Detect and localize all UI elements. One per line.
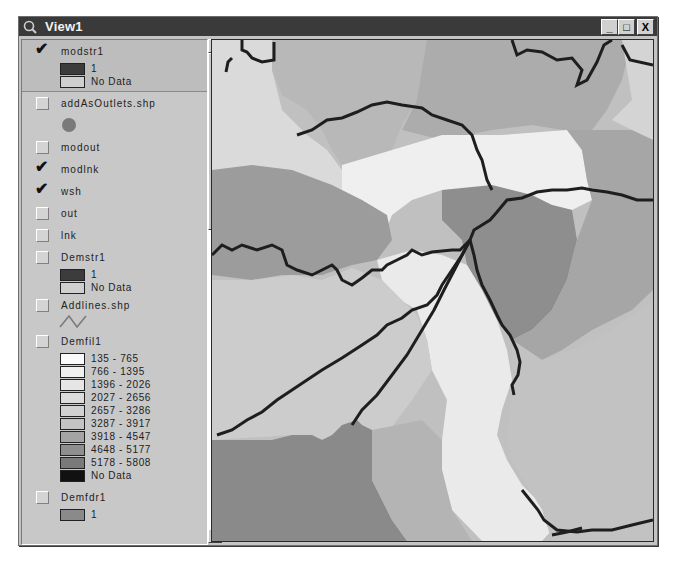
legend-label: 3918 - 4547	[91, 431, 151, 442]
map-display[interactable]	[211, 39, 654, 542]
line-symbol-icon	[58, 312, 207, 330]
legend-label: 1	[91, 63, 97, 74]
layer-addlines[interactable]: Addlines.shp	[22, 294, 207, 330]
layer-demfdr1[interactable]: Demfdr1 1	[22, 486, 207, 521]
layer-demfil1[interactable]: Demfil1 135 - 765 766 - 1395 1396 - 2026…	[22, 330, 207, 482]
legend-swatch	[60, 353, 85, 365]
legend-label: No Data	[91, 282, 132, 293]
legend-item: 2657 - 3286	[60, 404, 207, 417]
legend-item: 2027 - 2656	[60, 391, 207, 404]
layer-visibility-checkbox[interactable]	[36, 207, 49, 220]
layer-name: lnk	[61, 230, 77, 241]
layer-name: out	[61, 208, 78, 219]
layer-lnk[interactable]: lnk	[22, 224, 207, 246]
legend-item: 5178 - 5808	[60, 456, 207, 469]
legend-label: 1	[91, 269, 97, 280]
layer-visibility-checkbox[interactable]: ✔	[36, 163, 49, 176]
layer-name: modstr1	[61, 46, 104, 57]
legend-item: 135 - 765	[60, 352, 207, 365]
legend-item: 1	[60, 62, 207, 75]
layer-visibility-checkbox[interactable]	[36, 335, 49, 348]
layer-modstr1[interactable]: ✔ modstr1 1 No Data	[22, 40, 207, 92]
layer-name: Demfil1	[61, 336, 102, 347]
layer-demstr1[interactable]: Demstr1 1 No Data	[22, 246, 207, 294]
layer-name: Demstr1	[61, 252, 106, 263]
layer-modlnk[interactable]: ✔ modlnk	[22, 158, 207, 180]
legend-swatch	[60, 457, 85, 469]
legend-swatch	[60, 418, 85, 430]
layer-visibility-checkbox[interactable]	[36, 299, 49, 312]
legend-swatch	[60, 392, 85, 404]
minimize-button[interactable]: _	[601, 19, 618, 35]
layer-visibility-checkbox[interactable]	[36, 491, 49, 504]
layer-addasoutlets[interactable]: addAsOutlets.shp	[22, 92, 207, 136]
legend-label: No Data	[91, 470, 132, 481]
legend-item: 1	[60, 268, 207, 281]
layer-out[interactable]: out	[22, 202, 207, 224]
legend-item: 1396 - 2026	[60, 378, 207, 391]
legend-item: No Data	[60, 469, 207, 482]
legend-swatch	[60, 379, 85, 391]
layer-visibility-checkbox[interactable]	[36, 97, 49, 110]
layer-name: addAsOutlets.shp	[61, 98, 156, 109]
layer-name: modout	[61, 142, 100, 153]
checkmark-icon: ✔	[35, 159, 48, 175]
title-bar[interactable]: View1 _ □ X	[19, 17, 657, 36]
legend-swatch	[60, 63, 85, 75]
maximize-button[interactable]: □	[618, 19, 635, 35]
point-symbol-icon	[58, 114, 207, 136]
legend-label: 1	[91, 509, 97, 520]
legend-item: No Data	[60, 281, 207, 294]
legend-swatch	[60, 282, 85, 294]
legend-swatch	[60, 431, 85, 443]
legend-label: 5178 - 5808	[91, 457, 151, 468]
legend-item: 3918 - 4547	[60, 430, 207, 443]
layer-modout[interactable]: modout	[22, 136, 207, 158]
legend-swatch	[60, 470, 85, 482]
legend-label: 2027 - 2656	[91, 392, 151, 403]
layer-name: Demfdr1	[61, 492, 106, 503]
legend-swatch	[60, 444, 85, 456]
layer-visibility-checkbox[interactable]	[36, 141, 49, 154]
table-of-contents: ✔ modstr1 1 No Data addAsOutlets.shp	[21, 39, 208, 545]
view-globe-icon	[23, 20, 37, 34]
legend-swatch	[60, 405, 85, 417]
legend-item: 766 - 1395	[60, 365, 207, 378]
layer-name: Addlines.shp	[61, 300, 130, 311]
legend-label: 766 - 1395	[91, 366, 145, 377]
view-window: View1 _ □ X ✔ modstr1 1 No Data	[18, 16, 658, 546]
window-title: View1	[45, 19, 83, 34]
legend-label: 4648 - 5177	[91, 444, 151, 455]
legend-label: 3287 - 3917	[91, 418, 151, 429]
legend-item: 1	[60, 508, 207, 521]
watershed-map	[212, 40, 653, 541]
close-button[interactable]: X	[637, 19, 654, 35]
legend-item: No Data	[60, 75, 207, 88]
layer-visibility-checkbox[interactable]	[36, 229, 49, 242]
legend-label: 2657 - 3286	[91, 405, 151, 416]
legend-item: 4648 - 5177	[60, 443, 207, 456]
layer-visibility-checkbox[interactable]: ✔	[36, 185, 49, 198]
layer-visibility-checkbox[interactable]: ✔	[36, 45, 49, 58]
layer-visibility-checkbox[interactable]	[36, 251, 49, 264]
legend-swatch	[60, 76, 85, 88]
legend-item: 3287 - 3917	[60, 417, 207, 430]
checkmark-icon: ✔	[35, 41, 48, 57]
legend-swatch	[60, 269, 85, 281]
legend-label: 1396 - 2026	[91, 379, 151, 390]
checkmark-icon: ✔	[35, 181, 48, 197]
legend-label: No Data	[91, 76, 132, 87]
layer-wsh[interactable]: ✔ wsh	[22, 180, 207, 202]
layer-name: modlnk	[61, 164, 99, 175]
legend-swatch	[60, 509, 85, 521]
legend-swatch	[60, 366, 85, 378]
legend-label: 135 - 765	[91, 353, 139, 364]
layer-name: wsh	[61, 186, 82, 197]
